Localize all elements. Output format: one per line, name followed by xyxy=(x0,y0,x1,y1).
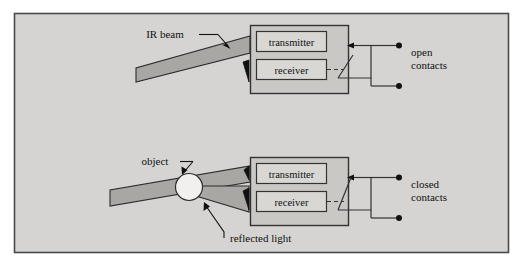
ir-beam-label: IR beam xyxy=(146,28,184,40)
contact-terminal-top-upper xyxy=(396,43,402,49)
sensor-diagram: transmitter receiver xyxy=(0,0,522,271)
open-contacts-label-line2: contacts xyxy=(411,59,447,71)
closed-contacts-label-line2: contacts xyxy=(411,191,447,203)
figure-canvas: transmitter receiver xyxy=(0,0,522,271)
object-label: object xyxy=(142,155,169,167)
contact-terminal-top-lower xyxy=(396,175,402,181)
contact-terminal-bottom-upper xyxy=(396,83,402,89)
open-contacts-label-line1: open xyxy=(411,46,433,58)
contact-terminal-bottom-lower xyxy=(396,215,402,221)
closed-contacts-label-line1: closed xyxy=(411,178,440,190)
reflected-light-label: reflected light xyxy=(230,232,291,244)
transmitter-label-lower: transmitter xyxy=(269,169,315,180)
receiver-label-lower: receiver xyxy=(275,197,309,208)
receiver-label-upper: receiver xyxy=(275,65,309,76)
transmitter-label-upper: transmitter xyxy=(269,37,315,48)
object-circle xyxy=(176,174,203,201)
